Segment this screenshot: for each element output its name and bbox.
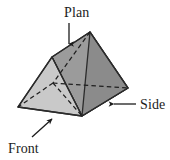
front-label: Front <box>8 141 39 156</box>
front-arrow-icon <box>32 119 52 137</box>
plan-label: Plan <box>64 5 89 20</box>
side-label-group: Side <box>114 97 165 112</box>
side-label: Side <box>140 97 165 112</box>
prism-solid <box>18 32 128 116</box>
front-label-group: Front <box>8 119 52 156</box>
prism-diagram-canvas: Plan Side Front <box>0 0 170 160</box>
prism-diagram-figure: Plan Side Front <box>0 0 170 160</box>
